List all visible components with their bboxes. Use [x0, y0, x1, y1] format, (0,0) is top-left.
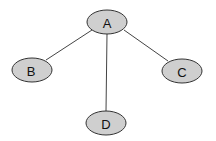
- node-d: D: [86, 111, 126, 135]
- edge-a-b: [46, 30, 92, 60]
- node-a: A: [87, 10, 127, 34]
- tree-diagram: A B C D: [0, 0, 216, 141]
- node-c-label: C: [177, 65, 186, 80]
- edge-a-d: [106, 34, 107, 111]
- node-b-label: B: [27, 64, 36, 79]
- edge-a-c: [124, 30, 168, 61]
- node-b: B: [12, 58, 52, 82]
- node-c: C: [162, 59, 202, 83]
- node-a-label: A: [103, 16, 112, 31]
- node-d-label: D: [101, 117, 110, 132]
